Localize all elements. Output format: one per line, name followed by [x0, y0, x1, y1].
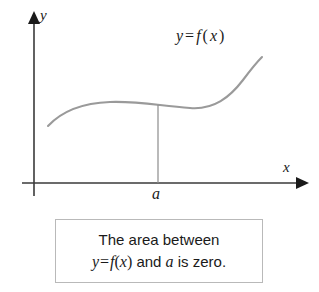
figure-container: y x a y=f(x) The area between y=f(x) and…: [0, 0, 319, 292]
caption-box: The area between y=f(x) and a is zero.: [55, 219, 263, 283]
curve-label-equals: =: [183, 27, 196, 44]
y-axis-arrowhead: [28, 11, 40, 24]
x-axis-arrowhead: [296, 177, 309, 189]
caption-line-2: y=f(x) and a is zero.: [92, 250, 226, 273]
curve-label-open-paren: (: [201, 27, 210, 44]
caption-x: x: [120, 253, 127, 270]
caption-rest: is zero.: [174, 253, 227, 270]
caption-line-1: The area between: [99, 229, 220, 251]
y-axis-label: y: [40, 8, 47, 23]
caption-and: and: [132, 253, 165, 270]
curve-equation-label: y=f(x): [176, 28, 226, 44]
curve-label-close-paren: ): [217, 27, 226, 44]
curve-label-x: x: [210, 27, 217, 44]
caption-y: y: [92, 253, 99, 270]
caption-a: a: [166, 253, 174, 270]
function-curve: [48, 57, 262, 126]
curve-label-f: f: [196, 27, 200, 44]
caption-equals: =: [99, 253, 110, 270]
x-tick-label-a: a: [152, 186, 160, 202]
x-axis-label: x: [283, 160, 290, 175]
